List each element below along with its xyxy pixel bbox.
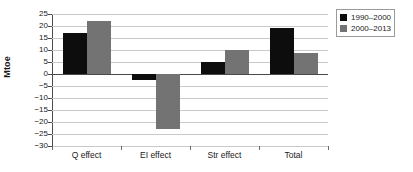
- y-tick-label: 0: [22, 70, 48, 78]
- y-tick-label: 15: [22, 34, 48, 42]
- x-tick-label: EI effect: [116, 150, 196, 160]
- y-tick-label: −10: [22, 94, 48, 102]
- legend-item[interactable]: 1990–2000: [340, 12, 391, 23]
- legend-swatch-icon: [340, 14, 347, 21]
- x-axis-labels: Q effectEI effectStr effectTotal: [52, 150, 328, 166]
- legend-label: 2000–2013: [351, 24, 391, 33]
- x-tick-label: Q effect: [47, 150, 127, 160]
- y-tick-label: 20: [22, 22, 48, 30]
- y-tick-label: −15: [22, 106, 48, 114]
- plot-area: [52, 14, 328, 146]
- y-tick-label: −30: [22, 142, 48, 150]
- bar: [63, 33, 87, 74]
- bar-chart: Mtoe 2520151050−5−10−15−20−25−30 Q effec…: [0, 0, 413, 172]
- x-tick-label: Str effect: [185, 150, 265, 160]
- y-tick-label: −5: [22, 82, 48, 90]
- bar: [156, 74, 180, 129]
- bars-layer: [52, 14, 328, 146]
- y-tick-label: 10: [22, 46, 48, 54]
- bar: [225, 50, 249, 74]
- legend-label: 1990–2000: [351, 13, 391, 22]
- y-tick-label: 5: [22, 58, 48, 66]
- y-tick-label: −20: [22, 118, 48, 126]
- legend-swatch-icon: [340, 25, 347, 32]
- bar: [270, 28, 294, 74]
- bar: [201, 62, 225, 74]
- y-axis-title: Mtoe: [2, 56, 16, 78]
- x-tick-label: Total: [254, 150, 334, 160]
- legend-item[interactable]: 2000–2013: [340, 23, 391, 34]
- bar: [294, 53, 318, 74]
- y-tick-label: 25: [22, 10, 48, 18]
- bar: [132, 74, 156, 80]
- legend: 1990–2000 2000–2013: [336, 9, 395, 37]
- y-tick-label: −25: [22, 130, 48, 138]
- bar: [87, 21, 111, 74]
- y-axis-tick-labels: 2520151050−5−10−15−20−25−30: [18, 14, 48, 146]
